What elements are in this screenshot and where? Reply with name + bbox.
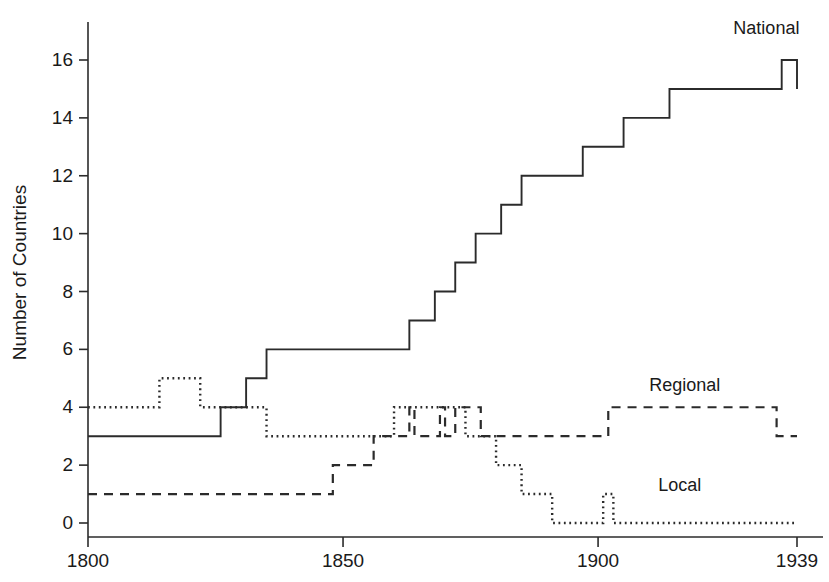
y-tick-label: 6: [62, 338, 73, 359]
line-chart-svg: 02468101214161800185019001939 NationalRe…: [0, 0, 829, 582]
y-tick-label: 4: [62, 396, 73, 417]
y-tick-label: 2: [62, 454, 73, 475]
series-label-regional: Regional: [649, 375, 720, 395]
y-tick-label: 14: [52, 107, 74, 128]
y-tick-label: 8: [62, 281, 73, 302]
series-label-local: Local: [658, 475, 701, 495]
series-label-national: National: [733, 18, 799, 38]
y-tick-label: 12: [52, 165, 73, 186]
axis-titles-group: Number of Countries: [9, 185, 30, 360]
chart-container: 02468101214161800185019001939 NationalRe…: [0, 0, 829, 582]
x-tick-label: 1850: [322, 550, 364, 571]
x-tick-label: 1800: [67, 550, 109, 571]
series-line-local: [88, 378, 797, 523]
series-group: [88, 60, 797, 523]
x-tick-label: 1900: [577, 550, 619, 571]
y-tick-label: 10: [52, 223, 73, 244]
y-axis-title: Number of Countries: [9, 185, 30, 360]
y-tick-label: 16: [52, 49, 73, 70]
x-tick-label: 1939: [776, 550, 818, 571]
y-tick-label: 0: [62, 512, 73, 533]
